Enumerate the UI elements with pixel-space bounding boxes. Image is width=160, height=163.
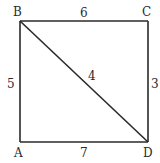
edge-weight-bd: 4 bbox=[88, 69, 96, 83]
vertex-label-a: A bbox=[13, 146, 23, 160]
edge-weight-bc: 6 bbox=[80, 6, 88, 20]
edge-weight-ab: 5 bbox=[7, 77, 15, 91]
edge-bd bbox=[20, 21, 148, 142]
graph-diagram: B C A D 6 3 7 5 4 bbox=[0, 0, 160, 163]
vertex-label-c: C bbox=[142, 5, 151, 19]
edge-weight-ad: 7 bbox=[80, 146, 88, 160]
vertex-label-d: D bbox=[143, 146, 153, 160]
edge-weight-cd: 3 bbox=[151, 77, 159, 91]
vertex-label-b: B bbox=[13, 5, 22, 19]
